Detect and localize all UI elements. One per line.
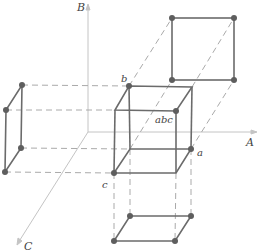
vertex-label-c: c [102, 180, 108, 190]
bottom-projection-square [114, 216, 191, 241]
axis-label-a: A [246, 137, 254, 148]
vertex-label-a: a [197, 148, 203, 158]
arrow-b-icon [86, 4, 90, 10]
projection-lines [5, 18, 234, 241]
diagram-canvas: B A C b abc a c [0, 0, 270, 252]
vertex-a [188, 146, 194, 152]
top-projection-square [172, 18, 234, 80]
central-cube [114, 86, 192, 173]
left-projection-square [5, 85, 22, 172]
axis-label-c: C [24, 241, 32, 252]
vertex-c [111, 170, 117, 176]
vertex-label-b: b [121, 74, 127, 84]
arrow-c-icon [17, 238, 22, 245]
cube-diagram [0, 0, 270, 252]
vertex-label-abc: abc [155, 115, 173, 125]
arrow-a-icon [251, 130, 257, 134]
axis-label-b: B [77, 2, 85, 13]
vertices [2, 15, 237, 244]
vertex-abc [173, 108, 179, 114]
